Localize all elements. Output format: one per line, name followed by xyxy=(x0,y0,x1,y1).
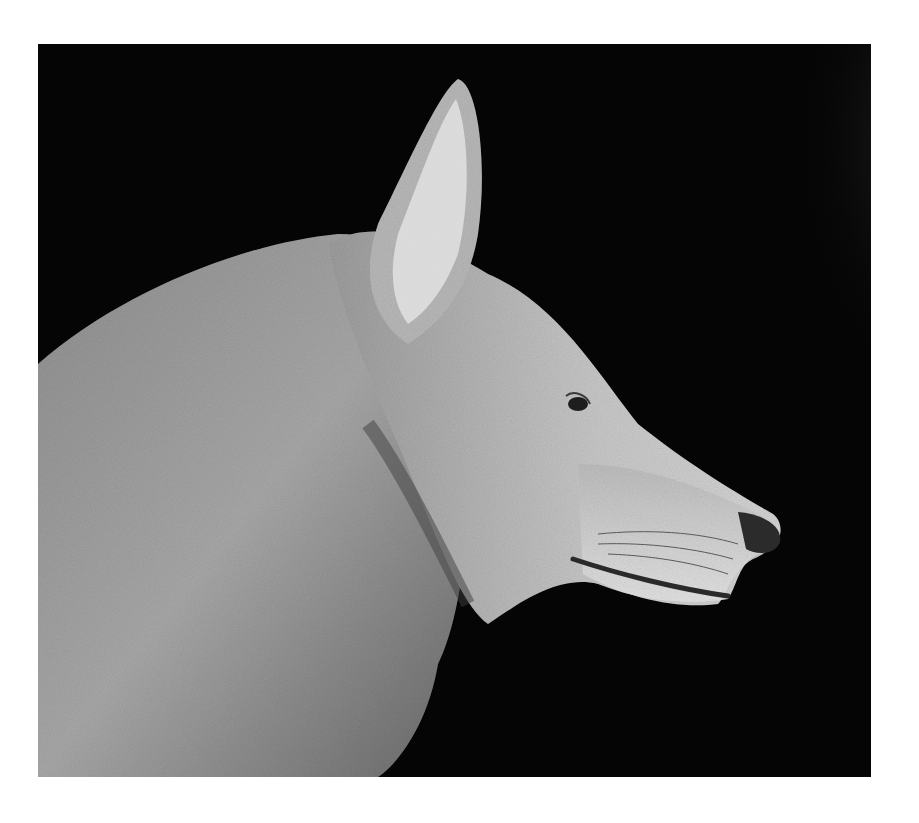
wolf-photo: Black and white photograph of a wolf's h… xyxy=(38,44,871,777)
wolf-illustration xyxy=(38,44,871,777)
